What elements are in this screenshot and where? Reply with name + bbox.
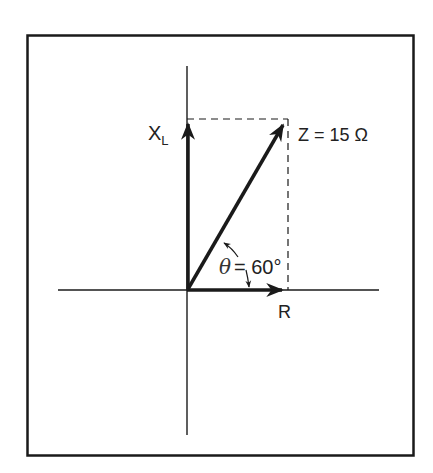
phasor-diagram: XL Z = 15 Ω θ = 60° R [0, 0, 433, 473]
theta-value: = 60° [234, 256, 281, 278]
xl-label: XL [148, 122, 169, 148]
figure-frame [28, 36, 414, 456]
r-label: R [278, 302, 291, 322]
theta-symbol: θ [219, 255, 231, 279]
z-label: Z = 15 Ω [298, 125, 368, 145]
